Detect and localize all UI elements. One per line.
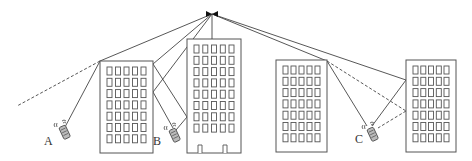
- signal-wave-icon: [172, 123, 176, 126]
- window: [141, 124, 146, 132]
- window: [421, 66, 426, 74]
- window: [315, 134, 320, 142]
- window: [194, 68, 199, 76]
- antenna-right-lobe-icon: [212, 11, 218, 17]
- window: [315, 77, 320, 85]
- window: [107, 124, 112, 132]
- window: [291, 111, 296, 119]
- window: [133, 78, 138, 86]
- window: [124, 101, 129, 109]
- window: [107, 101, 112, 109]
- window: [133, 135, 138, 143]
- door: [198, 145, 202, 153]
- window: [133, 124, 138, 132]
- window: [413, 77, 418, 85]
- window: [124, 78, 129, 86]
- window: [133, 101, 138, 109]
- window: [307, 89, 312, 97]
- window: [220, 90, 225, 98]
- window: [116, 135, 121, 143]
- window: [421, 89, 426, 97]
- window: [444, 123, 449, 131]
- window: [315, 111, 320, 119]
- window: [283, 89, 288, 97]
- diagram-canvas: [0, 0, 472, 161]
- mobile-label-a: A: [44, 135, 53, 147]
- window: [133, 90, 138, 98]
- signal-path: [327, 61, 367, 126]
- window: [203, 56, 208, 64]
- window: [220, 102, 225, 110]
- window: [299, 77, 304, 85]
- window: [220, 56, 225, 64]
- window: [194, 124, 199, 132]
- window: [429, 123, 434, 131]
- window: [421, 100, 426, 108]
- window: [220, 124, 225, 132]
- building-4: [406, 60, 456, 152]
- window: [212, 79, 217, 87]
- window: [107, 135, 112, 143]
- window: [436, 123, 441, 131]
- window: [436, 66, 441, 74]
- window: [444, 111, 449, 119]
- window: [299, 89, 304, 97]
- window: [299, 111, 304, 119]
- window: [194, 90, 199, 98]
- reflected-path-dashed: [17, 61, 100, 106]
- mobile-phone-icon: [367, 127, 379, 142]
- window: [436, 100, 441, 108]
- window: [429, 77, 434, 85]
- mobile-phone-c: [362, 122, 379, 142]
- window: [194, 102, 199, 110]
- window: [307, 100, 312, 108]
- window: [229, 79, 234, 87]
- window: [421, 77, 426, 85]
- window: [229, 90, 234, 98]
- window: [444, 134, 449, 142]
- window: [141, 112, 146, 120]
- window: [429, 89, 434, 97]
- window: [203, 102, 208, 110]
- window: [194, 56, 199, 64]
- window: [203, 90, 208, 98]
- window: [444, 66, 449, 74]
- window: [291, 77, 296, 85]
- window: [413, 123, 418, 131]
- signal-wave-icon: [362, 125, 365, 129]
- window: [307, 111, 312, 119]
- multipath-diagram: ABC: [0, 0, 472, 161]
- window: [291, 66, 296, 74]
- window: [291, 134, 296, 142]
- window: [203, 124, 208, 132]
- window: [229, 124, 234, 132]
- window: [283, 100, 288, 108]
- window: [124, 124, 129, 132]
- window: [107, 112, 112, 120]
- window: [413, 111, 418, 119]
- window: [203, 79, 208, 87]
- window: [291, 123, 296, 131]
- window: [141, 135, 146, 143]
- window: [283, 66, 288, 74]
- window: [116, 67, 121, 75]
- signal-path: [372, 80, 406, 126]
- mobile-phone-icon: [169, 128, 181, 143]
- window: [299, 66, 304, 74]
- door: [223, 145, 227, 153]
- window: [212, 68, 217, 76]
- window: [212, 124, 217, 132]
- building-3: [276, 60, 327, 152]
- window: [141, 67, 146, 75]
- window: [444, 77, 449, 85]
- base-station-antenna-icon: [206, 11, 218, 39]
- window: [107, 67, 112, 75]
- mobile-label-c: C: [355, 133, 363, 145]
- window: [116, 90, 121, 98]
- window: [299, 134, 304, 142]
- window: [299, 123, 304, 131]
- window: [429, 134, 434, 142]
- window: [194, 113, 199, 121]
- window: [436, 134, 441, 142]
- reflected-path-dashed: [327, 61, 406, 111]
